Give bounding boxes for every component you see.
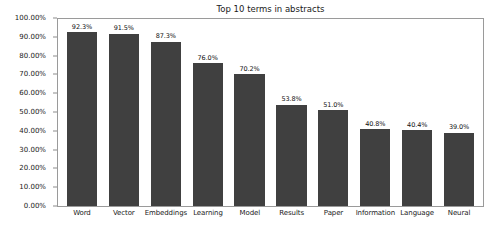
bar[interactable]: 87.3%	[151, 42, 181, 206]
bar[interactable]: 40.8%	[360, 129, 390, 206]
y-axis-tick-label: 20.00%	[19, 164, 46, 172]
x-axis-tick-label: Language	[396, 209, 438, 223]
bar[interactable]: 70.2%	[234, 74, 264, 206]
y-axis-tick-label: 0.00%	[24, 202, 46, 210]
bar[interactable]: 53.8%	[276, 105, 306, 206]
y-axis-tick-label: 40.00%	[19, 127, 46, 135]
bar-group: 53.8%	[271, 18, 313, 206]
bar[interactable]: 76.0%	[193, 63, 223, 206]
x-axis-tick-label: Results	[271, 209, 313, 223]
bar[interactable]: 51.0%	[318, 110, 348, 206]
bar-value-label: 76.0%	[198, 54, 218, 62]
bar-value-label: 51.0%	[323, 101, 343, 109]
y-axis-tick-label: 80.00%	[19, 52, 46, 60]
chart-title: Top 10 terms in abstracts	[57, 3, 484, 15]
bar-group: 91.5%	[103, 18, 145, 206]
bar-value-label: 91.5%	[114, 24, 134, 32]
bar-group: 39.0%	[438, 18, 480, 206]
bar-value-label: 92.3%	[72, 23, 92, 31]
y-axis-tick-label: 70.00%	[19, 70, 46, 78]
bar[interactable]: 39.0%	[444, 133, 474, 206]
y-axis: 100.00%90.00%80.00%70.00%60.00%50.00%40.…	[0, 18, 53, 207]
y-axis-tick-label: 10.00%	[19, 183, 46, 191]
bar-value-label: 87.3%	[156, 32, 176, 40]
y-axis-tick-label: 90.00%	[19, 33, 46, 41]
x-axis-tick-label: Learning	[187, 209, 229, 223]
y-axis-tick-label: 100.00%	[15, 14, 46, 22]
x-axis-tick-label: Paper	[313, 209, 355, 223]
bars-container: 92.3%91.5%87.3%76.0%70.2%53.8%51.0%40.8%…	[57, 18, 484, 206]
bar-group: 51.0%	[312, 18, 354, 206]
y-axis-tick-label: 30.00%	[19, 146, 46, 154]
bar-chart: Top 10 terms in abstracts 100.00%90.00%8…	[0, 0, 491, 242]
bar-group: 76.0%	[187, 18, 229, 206]
bar[interactable]: 40.4%	[402, 130, 432, 206]
bar-value-label: 40.4%	[407, 121, 427, 129]
bar[interactable]: 91.5%	[109, 34, 139, 206]
x-axis-tick-label: Embeddings	[145, 209, 187, 223]
y-axis-tick-label: 50.00%	[19, 108, 46, 116]
x-axis-tick-label: Information	[354, 209, 396, 223]
x-axis-tick-label: Vector	[103, 209, 145, 223]
bar-value-label: 39.0%	[449, 123, 469, 131]
bar-group: 70.2%	[229, 18, 271, 206]
bar-value-label: 53.8%	[281, 95, 301, 103]
bar[interactable]: 92.3%	[67, 32, 97, 206]
x-axis-tick-label: Neural	[438, 209, 480, 223]
x-axis: WordVectorEmbeddingsLearningModelResults…	[57, 209, 484, 223]
x-axis-tick-label: Word	[61, 209, 103, 223]
bar-group: 92.3%	[61, 18, 103, 206]
bar-group: 40.8%	[354, 18, 396, 206]
y-axis-tick-label: 60.00%	[19, 89, 46, 97]
bar-group: 40.4%	[396, 18, 438, 206]
bar-value-label: 70.2%	[239, 65, 259, 73]
bar-value-label: 40.8%	[365, 120, 385, 128]
bar-group: 87.3%	[145, 18, 187, 206]
x-axis-tick-label: Model	[229, 209, 271, 223]
